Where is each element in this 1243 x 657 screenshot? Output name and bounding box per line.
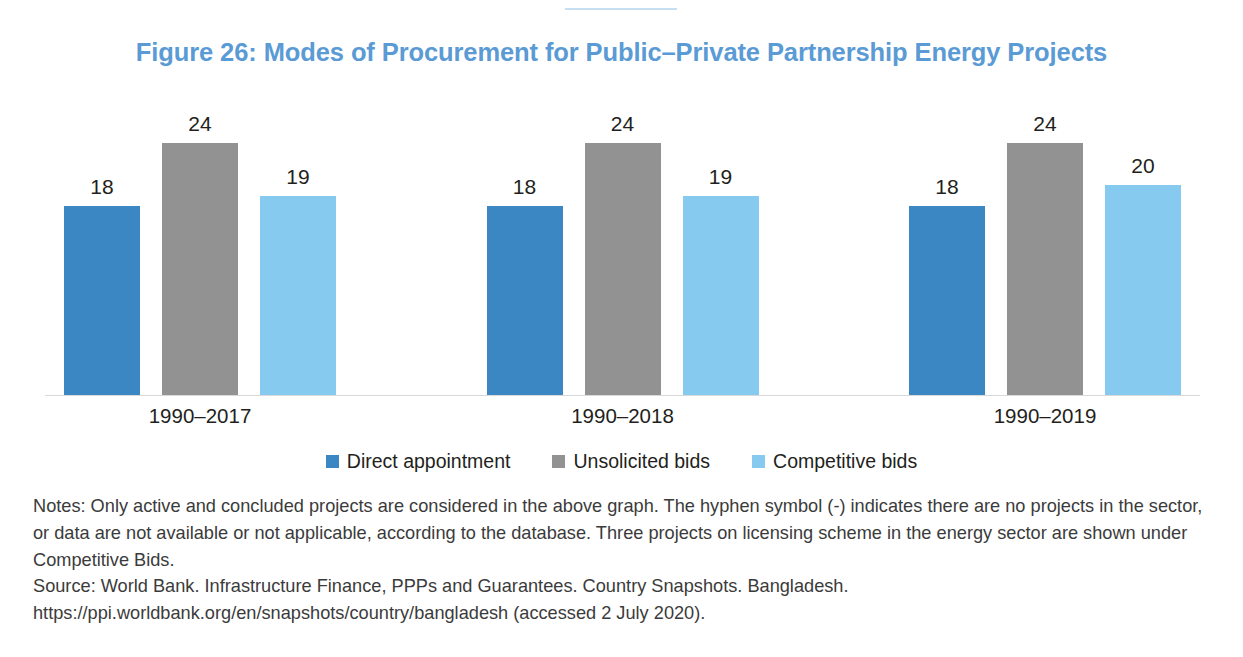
bar-direct-appointment[interactable] xyxy=(487,206,563,396)
figure-container: Figure 26: Modes of Procurement for Publ… xyxy=(0,0,1243,657)
bar-slot: 24 xyxy=(162,84,238,396)
notes-paragraph: Notes: Only active and concluded project… xyxy=(33,493,1223,573)
bar-unsolicited-bids[interactable] xyxy=(162,143,238,396)
x-axis-labels: 1990–20171990–20181990–2019 xyxy=(45,404,1200,428)
bar-slot: 18 xyxy=(64,84,140,396)
source-paragraph: Source: World Bank. Infrastructure Finan… xyxy=(33,573,1223,627)
x-axis-label: 1990–2019 xyxy=(890,404,1200,428)
bar-groups: 182419182419182420 xyxy=(45,84,1200,396)
legend-item-direct-appointment[interactable]: Direct appointment xyxy=(326,450,511,473)
bar-slot: 20 xyxy=(1105,84,1181,396)
bar-competitive-bids[interactable] xyxy=(683,196,759,396)
bar-slot: 24 xyxy=(585,84,661,396)
chart-legend: Direct appointmentUnsolicited bidsCompet… xyxy=(0,450,1243,473)
bar-slot: 18 xyxy=(909,84,985,396)
legend-label: Competitive bids xyxy=(773,450,917,473)
bar-group: 182419 xyxy=(468,84,778,396)
bar-value-label: 18 xyxy=(90,176,113,197)
bar-direct-appointment[interactable] xyxy=(64,206,140,396)
bar-slot: 24 xyxy=(1007,84,1083,396)
bar-unsolicited-bids[interactable] xyxy=(1007,143,1083,396)
legend-label: Direct appointment xyxy=(347,450,511,473)
bar-value-label: 24 xyxy=(1033,113,1056,134)
notes-block: Notes: Only active and concluded project… xyxy=(33,493,1223,627)
bar-value-label: 18 xyxy=(935,176,958,197)
bar-competitive-bids[interactable] xyxy=(1105,185,1181,396)
bar-group: 182419 xyxy=(45,84,355,396)
bar-value-label: 19 xyxy=(286,166,309,187)
x-axis-label: 1990–2017 xyxy=(45,404,355,428)
bar-competitive-bids[interactable] xyxy=(260,196,336,396)
legend-item-unsolicited-bids[interactable]: Unsolicited bids xyxy=(552,450,710,473)
bar-value-label: 24 xyxy=(188,113,211,134)
legend-item-competitive-bids[interactable]: Competitive bids xyxy=(752,450,917,473)
bar-value-label: 20 xyxy=(1131,155,1154,176)
bar-slot: 19 xyxy=(683,84,759,396)
chart-baseline xyxy=(45,395,1200,396)
bar-unsolicited-bids[interactable] xyxy=(585,143,661,396)
legend-swatch-icon xyxy=(326,455,339,468)
chart-plot-area: 182419182419182420 xyxy=(45,84,1200,396)
legend-swatch-icon xyxy=(752,455,765,468)
bar-direct-appointment[interactable] xyxy=(909,206,985,396)
bar-slot: 18 xyxy=(487,84,563,396)
legend-swatch-icon xyxy=(552,455,565,468)
bar-value-label: 18 xyxy=(513,176,536,197)
bar-value-label: 24 xyxy=(611,113,634,134)
bar-group: 182420 xyxy=(890,84,1200,396)
legend-label: Unsolicited bids xyxy=(573,450,710,473)
x-axis-label: 1990–2018 xyxy=(468,404,778,428)
bar-slot: 19 xyxy=(260,84,336,396)
bar-value-label: 19 xyxy=(709,166,732,187)
page-title: Figure 26: Modes of Procurement for Publ… xyxy=(0,38,1243,67)
